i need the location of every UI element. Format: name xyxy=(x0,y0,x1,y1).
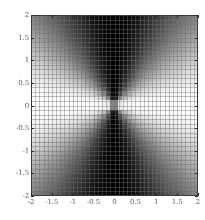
x-tick-mark-bottom xyxy=(73,193,74,196)
y-tick-mark-left xyxy=(31,15,34,16)
y-tick-label: 2 xyxy=(25,11,29,19)
x-tick-label: 1 xyxy=(154,198,158,206)
density-plot-canvas xyxy=(31,15,198,196)
y-tick-label: 0 xyxy=(25,102,29,110)
y-tick-mark-left xyxy=(31,196,34,197)
density-plot-raster-area xyxy=(31,15,198,196)
y-tick-mark-right xyxy=(195,38,198,39)
x-tick-label: 0.5 xyxy=(130,198,141,206)
y-tick-mark-right xyxy=(195,106,198,107)
y-tick-mark-left xyxy=(31,60,34,61)
x-tick-label: 1.5 xyxy=(172,198,183,206)
x-tick-label: -1.5 xyxy=(45,198,58,206)
x-tick-mark-bottom xyxy=(198,193,199,196)
x-tick-label: 0 xyxy=(112,198,116,206)
y-tick-mark-right xyxy=(195,128,198,129)
x-tick-mark-bottom xyxy=(52,193,53,196)
x-tick-mark-bottom xyxy=(115,193,116,196)
y-tick-mark-left xyxy=(31,38,34,39)
x-tick-mark-top xyxy=(177,15,178,18)
x-tick-label: -1 xyxy=(69,198,76,206)
x-tick-mark-top xyxy=(198,15,199,18)
y-tick-mark-right xyxy=(195,83,198,84)
x-tick-mark-top xyxy=(135,15,136,18)
y-tick-label: -0.5 xyxy=(16,124,29,132)
x-tick-mark-top xyxy=(73,15,74,18)
y-tick-label: -1.5 xyxy=(16,169,29,177)
y-tick-label: -1 xyxy=(22,147,29,155)
x-tick-mark-bottom xyxy=(94,193,95,196)
y-tick-mark-right xyxy=(195,15,198,16)
x-tick-mark-bottom xyxy=(156,193,157,196)
y-tick-label: 0.5 xyxy=(18,79,29,87)
density-plot-figure: -2-1.5-1-0.500.511.52 -2-1.5-1-0.500.511… xyxy=(0,0,205,220)
y-tick-mark-left xyxy=(31,173,34,174)
x-tick-mark-top xyxy=(52,15,53,18)
y-tick-mark-right xyxy=(195,173,198,174)
y-tick-label: 1.5 xyxy=(18,34,29,42)
y-tick-mark-right xyxy=(195,196,198,197)
x-tick-mark-top xyxy=(94,15,95,18)
y-tick-label: -2 xyxy=(22,192,29,200)
y-tick-mark-left xyxy=(31,106,34,107)
x-tick-mark-bottom xyxy=(135,193,136,196)
x-tick-label: -0.5 xyxy=(87,198,100,206)
y-tick-mark-right xyxy=(195,151,198,152)
y-tick-mark-left xyxy=(31,151,34,152)
x-tick-mark-bottom xyxy=(177,193,178,196)
x-tick-mark-top xyxy=(156,15,157,18)
x-tick-label: 2 xyxy=(196,198,200,206)
y-tick-label: 1 xyxy=(25,56,29,64)
x-tick-mark-top xyxy=(115,15,116,18)
y-tick-mark-left xyxy=(31,83,34,84)
y-tick-mark-left xyxy=(31,128,34,129)
y-tick-mark-right xyxy=(195,60,198,61)
